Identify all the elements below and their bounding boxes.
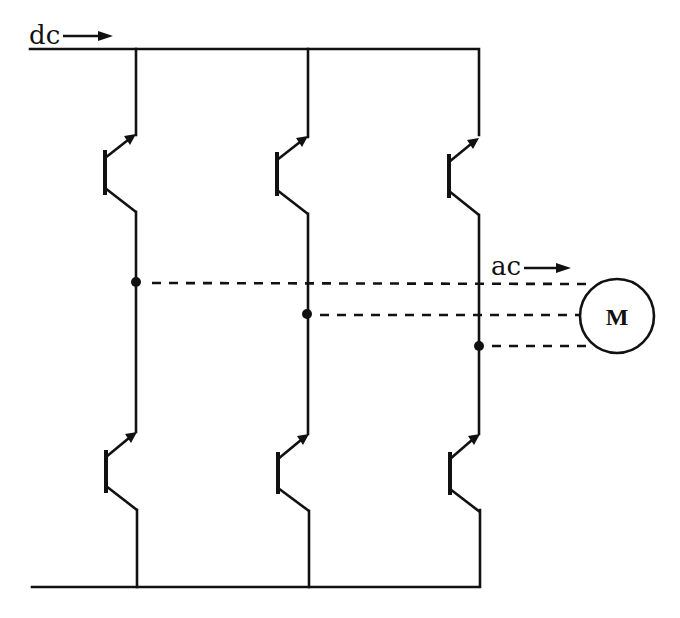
top-dc-rail — [30, 49, 479, 135]
inverter-leg-3 — [449, 138, 484, 512]
output-node-1 — [131, 277, 141, 287]
upper-transistor-2 — [277, 136, 308, 214]
dc-arrow-icon — [63, 31, 113, 41]
ac-phase-line-1 — [152, 283, 590, 284]
ac-label: ac — [491, 251, 521, 281]
inverter-leg-2 — [277, 49, 312, 587]
lower-transistor-3 — [450, 434, 480, 512]
ac-arrow-icon — [524, 263, 571, 273]
lower-transistor-1 — [106, 432, 137, 510]
dc-label: dc — [29, 20, 60, 50]
lower-transistor-2 — [278, 434, 309, 511]
motor: M — [580, 279, 654, 353]
bottom-dc-rail — [32, 510, 480, 587]
inverter-leg-1 — [105, 49, 141, 587]
output-node-3 — [474, 341, 484, 351]
motor-label: M — [606, 304, 629, 330]
inverter-circuit-diagram: dc — [0, 0, 680, 618]
upper-transistor-1 — [105, 134, 136, 212]
output-node-2 — [302, 309, 312, 319]
upper-transistor-3 — [449, 138, 479, 215]
